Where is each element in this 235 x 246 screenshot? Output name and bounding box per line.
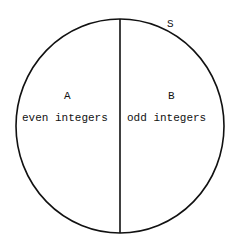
set-s-label: S xyxy=(167,18,174,30)
region-a-label: A xyxy=(64,90,71,102)
region-a-description: even integers xyxy=(22,112,108,124)
region-b-description: odd integers xyxy=(127,112,206,124)
region-b-label: B xyxy=(168,90,175,102)
